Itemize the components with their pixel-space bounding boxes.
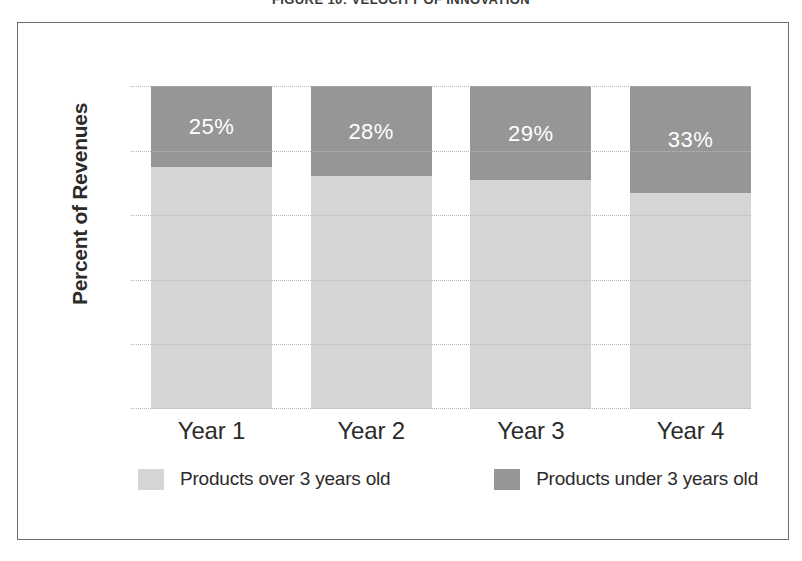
bar-column-year-2[interactable]: 28%: [311, 86, 432, 409]
legend-swatch-icon: [494, 469, 520, 490]
chart-legend: Products over 3 years old Products under…: [138, 468, 758, 490]
x-tick-year-3: Year 3: [470, 417, 591, 445]
bar-column-year-1[interactable]: 25%: [151, 86, 272, 409]
bar-segment-over-3-years[interactable]: [151, 167, 272, 409]
x-axis: Year 1 Year 2 Year 3 Year 4: [151, 417, 751, 445]
plot-area: 25% 28% 29% 33%: [131, 86, 751, 409]
bar-segment-over-3-years[interactable]: [470, 180, 591, 409]
bar-value-label: 25%: [189, 116, 235, 138]
bar-segment-over-3-years[interactable]: [311, 176, 432, 409]
x-tick-year-2: Year 2: [311, 417, 432, 445]
bar-segment-under-3-years[interactable]: 29%: [470, 86, 591, 180]
bar-value-label: 33%: [668, 129, 714, 151]
figure-frame: Percent of Revenues 25% 28%: [17, 22, 789, 540]
y-axis-label: Percent of Revenues: [68, 105, 92, 305]
x-tick-year-1: Year 1: [151, 417, 272, 445]
bar-column-year-3[interactable]: 29%: [470, 86, 591, 409]
bar-segment-under-3-years[interactable]: 25%: [151, 86, 272, 167]
x-tick-year-4: Year 4: [630, 417, 751, 445]
bar-segment-over-3-years[interactable]: [630, 193, 751, 409]
figure-title: FIGURE 10: VELOCITY OF INNOVATION: [0, 0, 802, 9]
bar-segment-under-3-years[interactable]: 28%: [311, 86, 432, 176]
legend-item-over-3-years[interactable]: Products over 3 years old: [138, 468, 390, 490]
bar-group: 25% 28% 29% 33%: [151, 86, 751, 409]
legend-label: Products over 3 years old: [180, 468, 390, 490]
bar-value-label: 28%: [348, 121, 394, 143]
legend-swatch-icon: [138, 469, 164, 490]
bar-column-year-4[interactable]: 33%: [630, 86, 751, 409]
bar-value-label: 29%: [508, 123, 554, 145]
legend-item-under-3-years[interactable]: Products under 3 years old: [494, 468, 758, 490]
bar-segment-under-3-years[interactable]: 33%: [630, 86, 751, 193]
legend-label: Products under 3 years old: [536, 468, 758, 490]
